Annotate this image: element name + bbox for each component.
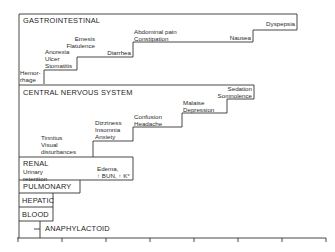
gi-label-nausea: Nausea bbox=[215, 34, 251, 41]
renal-label-urinary: Urinary retention bbox=[23, 168, 47, 182]
label-line: Edema, bbox=[97, 165, 130, 172]
gi-label-emesis: Emesis Flatulence bbox=[55, 35, 95, 49]
hepatic-title: HEPATIC bbox=[22, 197, 54, 205]
gi-title: GASTROINTESTINAL bbox=[23, 17, 100, 25]
label-line: Malaise bbox=[183, 99, 214, 106]
label-line: Somnolence bbox=[210, 92, 252, 99]
label-line: Visual bbox=[41, 141, 76, 148]
label-line: disturbances bbox=[41, 148, 76, 155]
label-line: Dizziness bbox=[95, 119, 121, 126]
label-line: Sedation bbox=[210, 85, 252, 92]
pulmonary-title: PULMONARY bbox=[23, 183, 71, 191]
label-line: Insomnia bbox=[95, 126, 121, 133]
renal-title: RENAL bbox=[23, 160, 49, 168]
label-line: Anorexia bbox=[45, 48, 72, 55]
cns-label-tinnitus: Tinnitus Visual disturbances bbox=[41, 134, 76, 155]
cns-label-dizziness: Dizziness Insomnia Anxiety bbox=[95, 119, 121, 140]
renal-label-edema: Edema, ↑ BUN, ↑ K⁺ bbox=[97, 165, 130, 179]
gi-label-anorexia: Anorexia Ulcer Stomatitis bbox=[45, 48, 72, 69]
label-line: Emesis bbox=[55, 35, 95, 42]
gi-label-diarrhea: Diarrhea bbox=[100, 49, 131, 56]
label-line: Hemor- bbox=[20, 69, 41, 76]
label-line: rhage bbox=[20, 76, 41, 83]
x-axis-ticks bbox=[18, 238, 326, 242]
gi-label-hemorrhage: Hemor- rhage bbox=[20, 69, 41, 83]
blood-title: BLOOD bbox=[22, 211, 49, 219]
label-line: Ulcer bbox=[45, 55, 72, 62]
label-line: Anxiety bbox=[95, 133, 121, 140]
gi-label-dyspepsia: Dyspepsia bbox=[255, 20, 295, 27]
cns-label-confusion: Confusion Headache bbox=[134, 113, 162, 127]
label-line: ↑ BUN, ↑ K⁺ bbox=[97, 172, 130, 179]
anaphylactoid-title: ANAPHYLACTOID bbox=[45, 225, 110, 233]
label-line: Urinary bbox=[23, 168, 47, 175]
cns-label-sedation: Sedation Somnolence bbox=[210, 85, 252, 99]
label-line: Depression bbox=[183, 106, 214, 113]
label-line: Abdominal pain bbox=[134, 28, 177, 35]
label-line: Tinnitus bbox=[41, 134, 76, 141]
label-line: retention bbox=[23, 175, 47, 182]
cns-title: CENTRAL NERVOUS SYSTEM bbox=[23, 89, 133, 97]
label-line: Flatulence bbox=[55, 42, 95, 49]
label-line: Constipation bbox=[134, 35, 177, 42]
gi-label-abdominal: Abdominal pain Constipation bbox=[134, 28, 177, 42]
label-line: Headache bbox=[134, 120, 162, 127]
label-line: Confusion bbox=[134, 113, 162, 120]
label-line: Stomatitis bbox=[45, 62, 72, 69]
cns-label-malaise: Malaise Depression bbox=[183, 99, 214, 113]
